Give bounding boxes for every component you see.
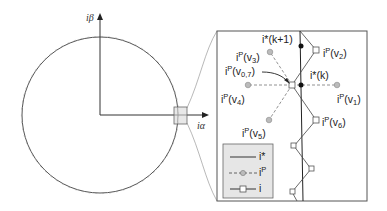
marker-v4 (245, 82, 251, 88)
marker-v0-7 (289, 82, 295, 88)
legend-label-reference: i* (259, 151, 265, 162)
marker-v6 (313, 117, 319, 123)
legend-circle-marker (240, 170, 245, 175)
marker-v5 (266, 117, 272, 123)
marker-v1 (334, 82, 340, 88)
diagram-canvas (0, 0, 387, 211)
label-i-star-k1: i*(k+1) (262, 34, 293, 45)
x-axis-arrow-icon (202, 112, 209, 118)
y-axis-label: iβ (86, 13, 94, 23)
legend-label-actual: i (259, 183, 261, 194)
x-axis-label: iα (197, 121, 205, 131)
y-axis-arrow-icon (97, 13, 103, 20)
label-v4: iP(v4) (221, 93, 245, 107)
label-v5: iP(v5) (242, 127, 266, 141)
label-i-star-k: i*(k) (310, 70, 329, 81)
label-v1: iP(v1) (337, 93, 361, 107)
reference-dot-k (299, 83, 304, 88)
reference-dot-k1 (299, 44, 304, 49)
marker-v2 (313, 47, 319, 53)
legend-square-marker (240, 186, 246, 192)
axes (97, 13, 209, 118)
legend-label-predicted: iP (259, 166, 266, 178)
zoom-region-box (174, 107, 187, 124)
label-v6: iP(v6) (322, 116, 346, 130)
label-v0-7: iP(v0,7) (225, 65, 255, 79)
label-v3: iP(v3) (236, 51, 260, 65)
marker-v3 (267, 49, 273, 55)
label-v2: iP(v2) (323, 47, 347, 61)
